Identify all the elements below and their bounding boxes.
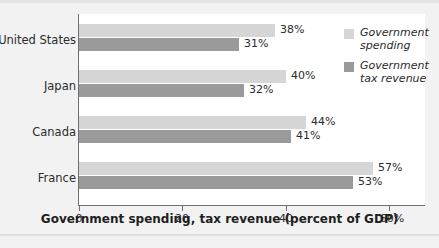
bar-revenue-united-states — [79, 38, 239, 51]
bar-value-revenue-united-states: 31% — [244, 37, 268, 50]
bar-value-revenue-japan: 32% — [249, 83, 273, 96]
legend-swatch-spending-icon — [344, 29, 354, 39]
bar-value-revenue-france: 53% — [358, 175, 382, 188]
x-tick-mark-40 — [286, 206, 287, 211]
bar-spending-canada — [79, 116, 306, 129]
bar-spending-united-states — [79, 24, 275, 37]
legend: Government spending Government tax reven… — [344, 27, 436, 93]
legend-item-government-tax-revenue: Government tax revenue — [344, 60, 436, 86]
category-label-canada: Canada — [32, 125, 76, 139]
bar-value-spending-france: 57% — [378, 161, 402, 174]
bar-value-spending-united-states: 38% — [280, 23, 304, 36]
x-tick-mark-60 — [389, 206, 390, 211]
bar-revenue-japan — [79, 84, 244, 97]
bottom-rule-divider — [0, 234, 439, 236]
bar-revenue-canada — [79, 130, 291, 143]
x-axis-title: Government spending, tax revenue (percen… — [0, 212, 439, 226]
bar-value-revenue-canada: 41% — [296, 129, 320, 142]
bar-chart-figure: United States Japan Canada France 38% 31… — [0, 0, 439, 248]
category-label-japan: Japan — [44, 79, 76, 93]
bar-value-spending-canada: 44% — [311, 115, 335, 128]
legend-swatch-revenue-icon — [344, 62, 354, 72]
legend-label-government-tax-revenue: Government tax revenue — [360, 60, 436, 85]
x-tick-mark-0 — [79, 206, 80, 211]
legend-item-government-spending: Government spending — [344, 27, 436, 53]
bar-spending-japan — [79, 70, 286, 83]
bar-spending-france — [79, 162, 373, 175]
category-label-united-states: United States — [0, 33, 76, 47]
bar-value-spending-japan: 40% — [291, 69, 315, 82]
top-band-divider — [0, 0, 439, 3]
bar-revenue-france — [79, 176, 353, 189]
category-label-france: France — [38, 171, 76, 185]
x-tick-mark-20 — [182, 206, 183, 211]
x-axis-line — [78, 205, 425, 206]
legend-label-government-spending: Government spending — [360, 27, 436, 52]
